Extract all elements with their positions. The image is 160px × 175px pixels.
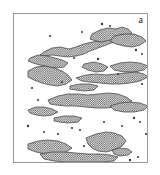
phase-speckle: [117, 73, 119, 75]
micrograph-canvas: [14, 14, 147, 162]
phase-speckle: [37, 99, 39, 101]
phase-speckle: [139, 121, 141, 123]
panel-label: a: [139, 15, 143, 25]
phase-speckle: [145, 133, 147, 135]
phase-speckle: [49, 35, 51, 37]
phase-speckle: [71, 127, 73, 129]
phase-speckle: [79, 129, 81, 131]
phase-speckle: [81, 31, 83, 33]
phase-speckle: [133, 117, 135, 119]
figure-panel: a: [0, 0, 160, 175]
phase-speckle: [129, 159, 131, 161]
phase-speckle: [137, 156, 139, 158]
micrograph-image: [14, 14, 147, 162]
phase-speckle: [141, 83, 143, 85]
micrograph-frame: a: [13, 13, 148, 163]
phase-speckle: [27, 125, 29, 127]
phase-speckle: [141, 53, 143, 55]
phase-speckle: [31, 87, 33, 89]
phase-speckle: [83, 145, 85, 147]
phase-region: [70, 84, 98, 91]
phase-speckle: [97, 58, 99, 60]
phase-speckle: [121, 125, 123, 127]
phase-speckle: [61, 81, 63, 83]
phase-speckle: [109, 25, 111, 27]
phase-speckle: [57, 133, 59, 135]
phase-speckle: [43, 131, 45, 133]
phase-region: [54, 116, 82, 123]
phase-speckle: [135, 49, 137, 51]
phase-speckle: [73, 57, 75, 59]
phase-speckle: [103, 121, 105, 123]
phase-speckle: [101, 23, 103, 25]
